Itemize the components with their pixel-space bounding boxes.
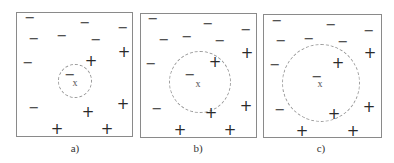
- panel-caption: c): [317, 142, 326, 154]
- negative-sample: −: [304, 32, 315, 45]
- positive-sample: +: [174, 123, 187, 138]
- negative-sample: −: [275, 103, 286, 116]
- negative-sample: −: [25, 11, 36, 24]
- negative-sample: −: [215, 34, 226, 47]
- negative-sample: −: [241, 23, 252, 36]
- negative-sample: −: [57, 29, 68, 42]
- positive-sample: +: [118, 45, 131, 60]
- negative-sample: −: [326, 18, 337, 31]
- panel-caption: b): [193, 142, 202, 154]
- positive-sample: +: [332, 56, 345, 71]
- positive-sample: +: [240, 99, 253, 114]
- negative-sample: −: [118, 21, 129, 34]
- positive-sample: +: [363, 100, 376, 115]
- query-point-label: x: [196, 78, 201, 89]
- negative-sample: −: [29, 101, 40, 114]
- positive-sample: +: [82, 105, 95, 120]
- negative-sample: −: [276, 34, 287, 47]
- positive-sample: +: [296, 124, 309, 139]
- positive-sample: +: [101, 122, 114, 137]
- query-class-marker: −: [185, 68, 196, 81]
- positive-sample: +: [224, 123, 237, 138]
- positive-sample: +: [205, 106, 218, 121]
- negative-sample: −: [80, 16, 91, 29]
- positive-sample: +: [85, 54, 98, 69]
- positive-sample: +: [209, 55, 222, 70]
- negative-sample: −: [159, 33, 170, 46]
- positive-sample: +: [328, 107, 341, 122]
- positive-sample: +: [51, 122, 64, 137]
- negative-sample: −: [146, 57, 157, 70]
- negative-sample: −: [148, 12, 159, 25]
- negative-sample: −: [364, 24, 375, 37]
- negative-sample: −: [23, 56, 34, 69]
- positive-sample: +: [364, 46, 377, 61]
- positive-sample: +: [347, 124, 360, 139]
- negative-sample: −: [29, 32, 40, 45]
- positive-sample: +: [117, 97, 130, 112]
- negative-sample: −: [270, 58, 281, 71]
- negative-sample: −: [152, 102, 163, 115]
- query-point-label: x: [73, 77, 78, 88]
- negative-sample: −: [91, 33, 102, 46]
- query-point-label: x: [318, 78, 323, 89]
- negative-sample: −: [338, 35, 349, 48]
- negative-sample: −: [182, 30, 193, 43]
- positive-sample: +: [241, 46, 254, 61]
- panel-caption: a): [71, 142, 80, 154]
- negative-sample: −: [272, 14, 283, 27]
- negative-sample: −: [203, 17, 214, 30]
